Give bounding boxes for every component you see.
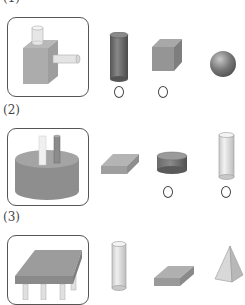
sphere-option-1[interactable] xyxy=(209,50,237,78)
cylinder-option-1[interactable] xyxy=(109,32,129,82)
problem-2-composite-box xyxy=(7,128,89,206)
problem-2-label: (2) xyxy=(3,103,20,117)
problem-1-label: (1) xyxy=(3,0,20,5)
tall-cylinder-option-3[interactable] xyxy=(110,240,128,292)
table-figure xyxy=(8,236,88,300)
cube-with-cylinders-figure xyxy=(8,18,88,96)
cube-option-1[interactable] xyxy=(151,38,183,72)
selection-mark[interactable] xyxy=(221,186,231,198)
pyramid-option-3[interactable] xyxy=(213,245,245,285)
short-cylinder-option-2[interactable] xyxy=(156,151,188,177)
problem-1-composite-box xyxy=(7,17,89,97)
slab-option-3[interactable] xyxy=(153,262,195,288)
selection-mark[interactable] xyxy=(114,86,124,98)
selection-mark[interactable] xyxy=(158,86,168,98)
slab-option-2[interactable] xyxy=(100,150,140,176)
problem-3-label: (3) xyxy=(3,210,20,224)
cylinder-with-rods-figure xyxy=(8,129,88,205)
tall-cylinder-option-2[interactable] xyxy=(217,131,237,181)
selection-mark[interactable] xyxy=(163,186,173,198)
problem-3-composite-box xyxy=(7,235,89,305)
